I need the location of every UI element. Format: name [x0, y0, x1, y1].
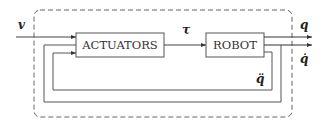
actuators-label: ACTUATORS	[81, 38, 158, 52]
robot-block: ROBOT	[206, 33, 264, 57]
torque-label-tau: τ	[182, 23, 191, 37]
robot-label: ROBOT	[213, 38, 257, 52]
output-label-q: q	[300, 18, 308, 32]
output-label-qdot: q̇	[300, 52, 308, 66]
block-diagram: v ACTUATORS τ ROBOT q q̇ q̈	[0, 0, 328, 123]
system-enclosure	[34, 10, 292, 117]
input-label-v: v	[18, 18, 26, 32]
actuators-block: ACTUATORS	[76, 33, 164, 57]
feedback-label-qddot: q̈	[256, 72, 264, 86]
feedback-inner-loop	[53, 52, 272, 90]
